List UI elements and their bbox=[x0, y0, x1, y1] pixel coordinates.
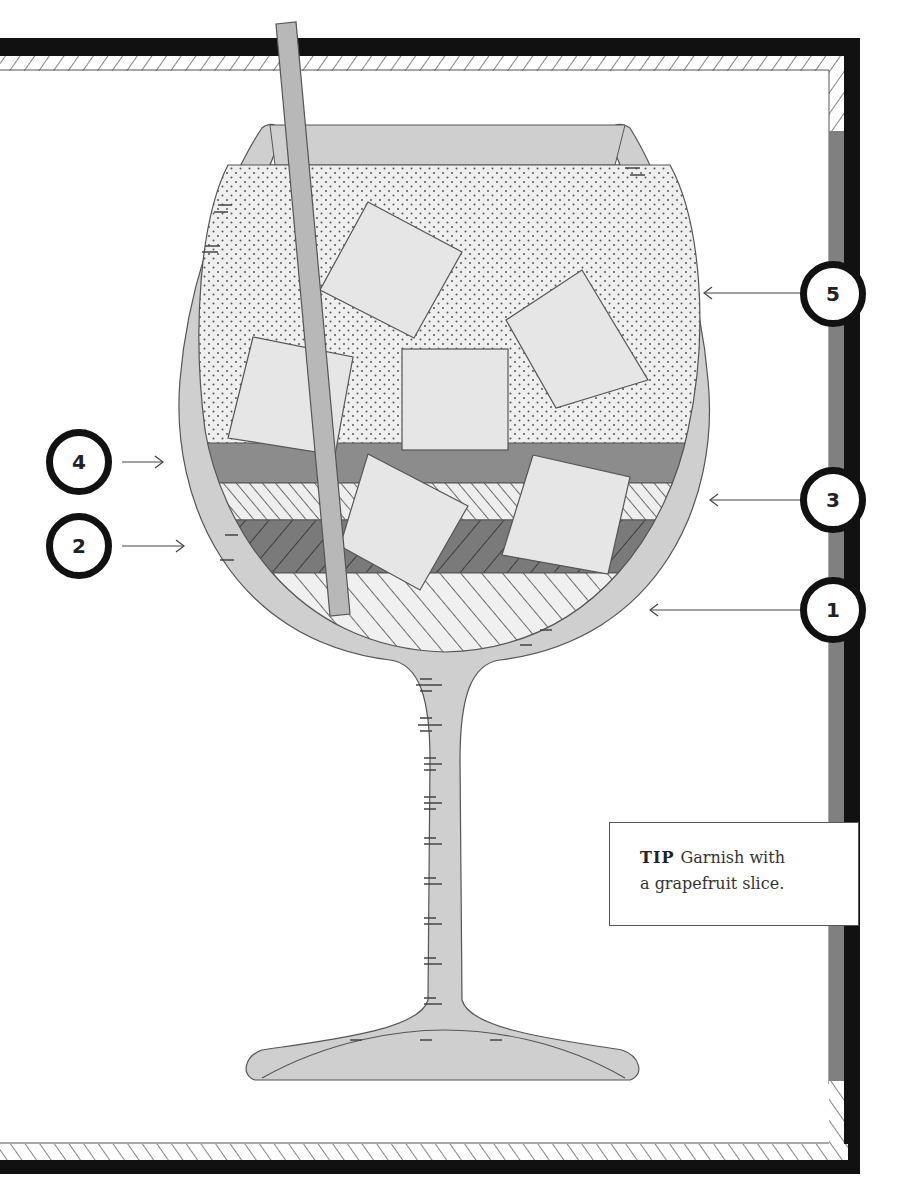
callout-3: 3 bbox=[800, 467, 866, 533]
callout-2: 2 bbox=[46, 513, 112, 579]
callout-3-label: 3 bbox=[826, 488, 840, 512]
illustration bbox=[0, 0, 904, 1200]
callout-1: 1 bbox=[800, 577, 866, 643]
callout-5-label: 5 bbox=[826, 282, 840, 306]
callout-5: 5 bbox=[800, 261, 866, 327]
cocktail-diagram bbox=[0, 0, 904, 1200]
callout-1-label: 1 bbox=[826, 598, 840, 622]
callout-4-label: 4 bbox=[72, 450, 86, 474]
tip-text-line1: Garnish with bbox=[680, 848, 785, 867]
tip-box: TIPGarnish with a grapefruit slice. bbox=[609, 822, 859, 926]
tip-text-line2: a grapefruit slice. bbox=[640, 874, 784, 893]
callout-4: 4 bbox=[46, 429, 112, 495]
callout-2-label: 2 bbox=[72, 534, 86, 558]
tip-label: TIP bbox=[640, 848, 674, 867]
